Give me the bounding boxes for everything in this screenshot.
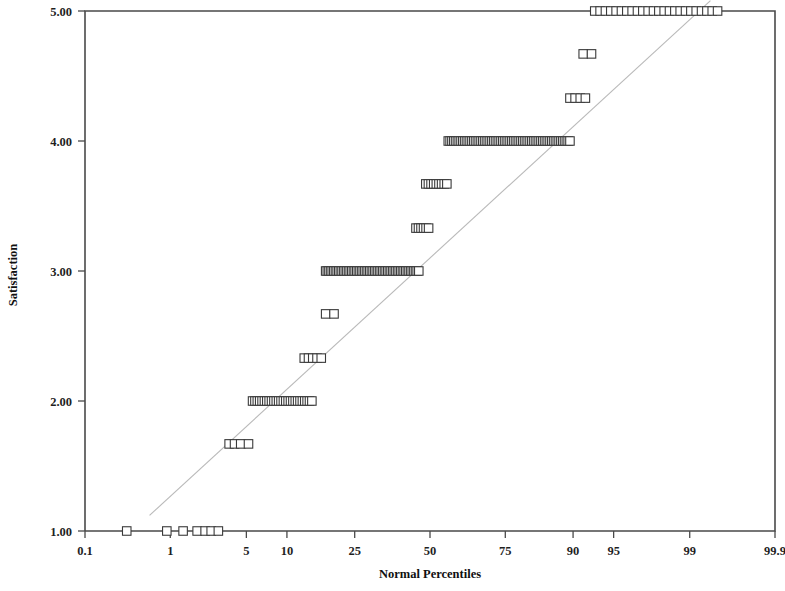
y-tick-label-5.00: 5.00 [50, 5, 72, 19]
data-point [415, 267, 424, 276]
x-tick-label-75: 75 [499, 544, 512, 558]
x-tick-label-90: 90 [567, 544, 580, 558]
data-point [443, 180, 452, 189]
data-point [308, 397, 317, 406]
x-tick-label-95: 95 [607, 544, 620, 558]
data-point [330, 310, 339, 319]
x-tick-label-99: 99 [683, 544, 696, 558]
data-point [566, 137, 575, 146]
data-point [424, 224, 433, 233]
x-tick-label-25: 25 [348, 544, 361, 558]
data-point [214, 527, 223, 536]
axis-frame [85, 11, 775, 531]
y-tick-label-4.00: 4.00 [50, 135, 72, 149]
data-point [163, 527, 172, 536]
y-axis-tick-labels: 1.002.003.004.005.00 [50, 5, 72, 539]
x-axis-title: Normal Percentiles [379, 567, 481, 581]
x-tick-label-10: 10 [281, 544, 294, 558]
x-tick-label-0.1: 0.1 [77, 544, 93, 558]
x-axis-tick-labels: 0.1151025507590959999.9 [77, 544, 785, 558]
x-tick-label-5: 5 [243, 544, 249, 558]
data-point [581, 94, 590, 103]
plot-canvas: 0.1151025507590959999.9 1.002.003.004.00… [0, 0, 785, 591]
data-point [713, 7, 722, 16]
x-tick-label-99.9: 99.9 [764, 544, 785, 558]
normal-probability-plot: 0.1151025507590959999.9 1.002.003.004.00… [0, 0, 785, 591]
y-axis-ticks [78, 11, 85, 531]
data-point-layer [122, 7, 721, 536]
data-point [317, 354, 326, 363]
data-point [236, 440, 245, 449]
data-point [579, 50, 588, 59]
data-point [193, 527, 202, 536]
data-point [179, 527, 188, 536]
reference-line-group [150, 1, 711, 516]
data-point [244, 440, 253, 449]
normal-reference-line [150, 1, 711, 516]
data-point [587, 50, 596, 59]
plot-frame [85, 11, 775, 531]
x-tick-label-1: 1 [167, 544, 173, 558]
x-tick-label-50: 50 [424, 544, 437, 558]
data-point [321, 310, 330, 319]
y-tick-label-1.00: 1.00 [50, 525, 72, 539]
data-point [122, 527, 130, 536]
y-tick-label-3.00: 3.00 [50, 265, 72, 279]
y-axis-title: Satisfaction [6, 244, 20, 307]
y-tick-label-2.00: 2.00 [50, 395, 72, 409]
x-axis-ticks [85, 531, 775, 538]
